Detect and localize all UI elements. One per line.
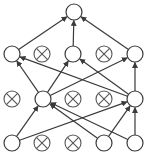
dropped-node-h1d <box>96 46 112 62</box>
dropped-node-h2d <box>96 91 112 107</box>
edge-h2e-to-h1c <box>80 59 129 94</box>
dropped-node-h2c <box>65 91 81 107</box>
edge-in5-to-h2b <box>51 103 128 140</box>
edge-h1e-to-out <box>81 17 128 50</box>
node-h1c <box>65 46 81 62</box>
edges-layer <box>17 17 135 141</box>
neuron-circle <box>127 91 143 107</box>
dropped-node-in2 <box>34 135 50 151</box>
dropped-node-h2a <box>4 91 20 107</box>
node-out <box>66 4 82 20</box>
neuron-circle <box>4 135 20 151</box>
edge-h2e-to-h1a <box>20 57 128 96</box>
edge-in1-to-h2b <box>17 106 38 137</box>
edge-h1a-to-out <box>19 17 67 50</box>
node-in1 <box>4 135 20 151</box>
neuron-circle <box>35 91 51 107</box>
neuron-circle <box>127 46 143 62</box>
node-h1e <box>127 46 143 62</box>
node-h2e <box>127 91 143 107</box>
node-h1a <box>4 46 20 62</box>
node-in5 <box>127 135 143 151</box>
edge-h2b-to-h1e <box>50 58 127 96</box>
neuron-circle <box>66 4 82 20</box>
node-h2b <box>35 91 51 107</box>
node-in4 <box>96 135 112 151</box>
edge-h2b-to-h1a <box>17 61 39 92</box>
edge-in4-to-h2e <box>109 106 130 137</box>
edge-h1c-to-out <box>73 21 74 47</box>
neuron-circle <box>96 135 112 151</box>
dropped-node-in3 <box>65 135 81 151</box>
neuron-circle <box>4 46 20 62</box>
neuron-circle <box>127 135 143 151</box>
neuron-circle <box>65 46 81 62</box>
dropout-network-diagram <box>0 0 148 158</box>
dropped-node-h1b <box>34 46 50 62</box>
